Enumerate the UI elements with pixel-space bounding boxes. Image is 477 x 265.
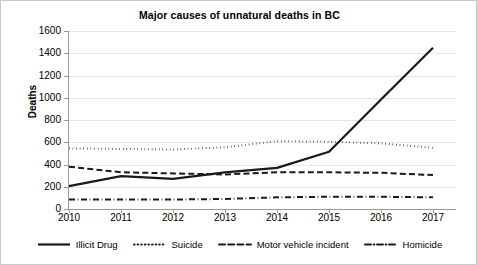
legend-item-homicide[interactable]: Homicide xyxy=(364,239,443,250)
legend-label: Illicit Drug xyxy=(76,239,118,250)
chart-legend: Illicit DrugSuicideMotor vehicle inciden… xyxy=(1,239,477,250)
series-line-suicide xyxy=(69,141,433,149)
chart-figure: Major causes of unnatural deaths in BC D… xyxy=(0,0,477,265)
legend-item-suicide[interactable]: Suicide xyxy=(133,239,203,250)
series-line-illicit-drug xyxy=(69,48,433,187)
legend-swatch-solid xyxy=(37,240,71,249)
legend-swatch-dashdot xyxy=(364,240,398,249)
legend-swatch-dotted xyxy=(133,240,167,249)
legend-item-motor-vehicle-incident[interactable]: Motor vehicle incident xyxy=(218,239,349,250)
legend-label: Motor vehicle incident xyxy=(257,239,349,250)
legend-item-illicit-drug[interactable]: Illicit Drug xyxy=(37,239,118,250)
series-line-homicide xyxy=(69,197,433,200)
legend-swatch-dashed xyxy=(218,240,252,249)
legend-label: Homicide xyxy=(403,239,443,250)
legend-label: Suicide xyxy=(172,239,203,250)
series-plot-area xyxy=(1,1,477,265)
